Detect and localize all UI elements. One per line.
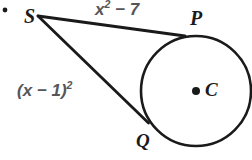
segment-length-label-sq: (x − 1)2	[17, 82, 72, 99]
center-point-dot	[192, 87, 200, 95]
point-label-p: P	[190, 8, 202, 28]
point-label-c: C	[205, 80, 218, 99]
segment-length-label-sp: x2 − 7	[95, 1, 139, 18]
expr-base: (x − 1)	[17, 81, 67, 100]
point-label-s: S	[24, 6, 35, 26]
geometry-diagram: S P Q C x2 − 7 (x − 1)2	[0, 0, 252, 160]
bullet-icon	[3, 8, 8, 13]
point-label-q: Q	[136, 131, 150, 150]
expr-tail: − 7	[110, 0, 139, 19]
expr-exponent: 2	[67, 79, 73, 91]
